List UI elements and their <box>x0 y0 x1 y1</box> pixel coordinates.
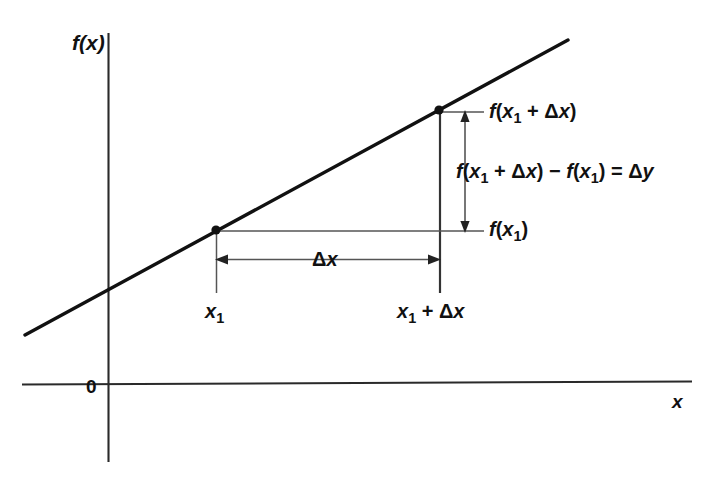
subscript-1b: 1 <box>591 170 599 186</box>
delta-symbol: Δ <box>544 100 558 122</box>
fn-symbol-2: f <box>566 160 573 182</box>
x-axis-label-text: x <box>672 391 683 412</box>
label-f-x1: f(x1) <box>489 219 528 243</box>
var-dx: x <box>453 300 464 322</box>
origin-label: 0 <box>86 377 97 396</box>
plus-operator: + <box>521 100 544 122</box>
var-x-2: x <box>580 160 591 182</box>
var-dx-1: x <box>526 160 537 182</box>
function-line <box>25 40 568 335</box>
equals-operator: = <box>605 160 628 182</box>
var-x: x <box>205 300 216 322</box>
label-delta-y-equation: f(x1 + Δx) − f(x1) = Δy <box>456 161 654 185</box>
var-dy: y <box>643 160 654 182</box>
label-delta-x-span: Δx <box>312 249 338 269</box>
x-tick-label-x1-plus-delta-x: x1 + Δx <box>397 301 464 325</box>
delta-symbol: Δ <box>312 248 326 270</box>
y-axis-label-text: f(x) <box>72 31 105 54</box>
label-f-x1-plus-delta-x: f(x1 + Δx) <box>489 101 576 125</box>
subscript-1: 1 <box>216 310 224 326</box>
x-axis-line <box>22 382 692 385</box>
plus-operator: + <box>488 160 511 182</box>
var-x-1: x <box>469 160 480 182</box>
point-marker-x1-plus-dx <box>434 105 443 114</box>
point-marker-x1 <box>211 225 220 234</box>
paren-open-2: ( <box>573 160 580 182</box>
minus-operator: − <box>543 160 566 182</box>
plus-operator: + <box>416 300 439 322</box>
delta-symbol: Δ <box>439 300 453 322</box>
origin-label-text: 0 <box>86 376 97 397</box>
paren-close: ) <box>521 218 528 240</box>
paren-close: ) <box>570 100 577 122</box>
figure-canvas: f(x) x 0 f(x1 + Δx) f(x1 + Δx) − f(x1) =… <box>0 0 709 480</box>
delta-symbol-2: Δ <box>628 160 642 182</box>
var-x: x <box>502 218 513 240</box>
fn-symbol: f <box>489 218 496 240</box>
diagram-svg <box>0 0 709 480</box>
fn-symbol: f <box>489 100 496 122</box>
delta-symbol-1: Δ <box>511 160 525 182</box>
x-tick-label-x1: x1 <box>205 301 224 325</box>
x-axis-label: x <box>672 392 683 411</box>
fn-symbol-1: f <box>456 160 463 182</box>
y-axis-label: f(x) <box>72 32 105 53</box>
var-x: x <box>326 248 337 270</box>
subscript-1: 1 <box>408 310 416 326</box>
var-dx: x <box>559 100 570 122</box>
var-x: x <box>502 100 513 122</box>
var-x: x <box>397 300 408 322</box>
